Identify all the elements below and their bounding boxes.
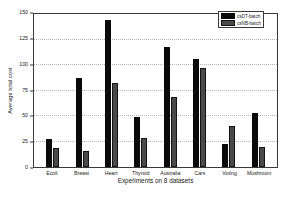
legend-label: csDT-batch <box>237 14 260 19</box>
bar-group <box>214 14 243 167</box>
y-tick-label: 100 <box>19 62 28 67</box>
bar <box>200 68 206 167</box>
bar <box>193 59 199 167</box>
bar <box>134 117 140 167</box>
bar <box>164 47 170 167</box>
bar-group <box>185 14 214 167</box>
bar <box>171 97 177 167</box>
legend-label: csNB-batch <box>237 21 261 26</box>
bar <box>105 20 111 167</box>
plot-area <box>33 13 278 168</box>
bar <box>252 113 258 167</box>
bar <box>76 78 82 167</box>
bar-groups <box>34 14 277 167</box>
chart-legend: csDT-batchcsNB-batch <box>218 11 264 28</box>
bar <box>229 126 235 167</box>
legend-swatch <box>221 13 235 19</box>
bar <box>112 83 118 167</box>
bar <box>141 138 147 167</box>
legend-swatch <box>221 20 235 26</box>
bar <box>46 139 52 167</box>
y-tick-label: 0 <box>25 165 28 170</box>
bar-group <box>97 14 126 167</box>
bar <box>83 151 89 167</box>
bar-chart-figure: Average total cost 0255075100125150 Ecol… <box>0 0 286 197</box>
bar <box>222 144 228 167</box>
bar-group <box>156 14 185 167</box>
y-tick-label: 50 <box>22 114 28 119</box>
y-tick-label: 150 <box>19 10 28 15</box>
legend-item: csNB-batch <box>221 20 261 26</box>
bar-group <box>38 14 67 167</box>
y-tick-label: 75 <box>22 88 28 93</box>
bar <box>53 148 59 167</box>
y-tick-label: 125 <box>19 36 28 41</box>
legend-item: csDT-batch <box>221 13 261 19</box>
bar-group <box>244 14 273 167</box>
bar <box>259 147 265 167</box>
y-axis-ticks: 0255075100125150 <box>0 13 33 168</box>
y-tick-label: 25 <box>22 140 28 145</box>
x-axis-title: Experiments on 8 datasets <box>33 177 278 184</box>
bar-group <box>67 14 96 167</box>
bar-group <box>126 14 155 167</box>
